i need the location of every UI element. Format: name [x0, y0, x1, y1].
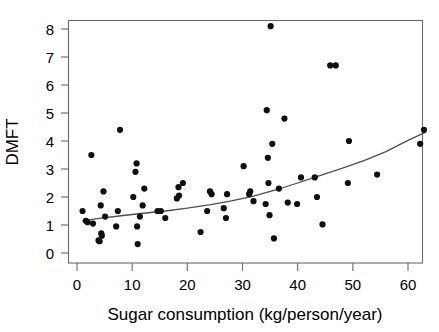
x-tick-label: 60 — [400, 276, 417, 293]
data-point — [346, 138, 352, 144]
data-point — [421, 127, 427, 133]
data-point — [285, 200, 291, 206]
data-point — [269, 141, 275, 147]
data-point — [88, 152, 94, 158]
scatter-points-group — [79, 23, 427, 247]
data-point — [312, 174, 318, 180]
x-axis-title: Sugar consumption (kg/person/year) — [108, 305, 383, 324]
data-point — [247, 188, 253, 194]
data-point — [134, 223, 140, 229]
data-point — [99, 233, 105, 239]
data-point — [265, 155, 271, 161]
data-point — [130, 194, 136, 200]
data-point — [298, 174, 304, 180]
chart-canvas: 012345678 0102030405060 Sugar consumptio… — [0, 0, 439, 332]
x-axis-tick-labels: 0102030405060 — [73, 276, 417, 293]
data-point — [133, 160, 139, 166]
data-point — [204, 208, 210, 214]
data-point — [294, 201, 300, 207]
y-tick-label: 0 — [46, 245, 54, 262]
data-point — [276, 186, 282, 192]
data-point — [84, 219, 90, 225]
data-point — [263, 201, 269, 207]
data-point — [333, 62, 339, 68]
data-point — [268, 23, 274, 29]
y-tick-label: 2 — [46, 189, 54, 206]
y-axis-tick-labels: 012345678 — [46, 21, 54, 262]
y-axis-title: DMFT — [3, 118, 22, 165]
y-tick-label: 7 — [46, 49, 54, 66]
data-point — [100, 188, 106, 194]
data-point — [141, 186, 147, 192]
data-point — [117, 127, 123, 133]
data-point — [197, 229, 203, 235]
data-point — [374, 172, 380, 178]
plot-frame — [69, 21, 423, 264]
data-point — [97, 238, 103, 244]
data-point — [314, 194, 320, 200]
data-point — [271, 235, 277, 241]
scatter-plot-figure: 012345678 0102030405060 Sugar consumptio… — [0, 0, 439, 332]
y-tick-label: 5 — [46, 105, 54, 122]
data-point — [132, 169, 138, 175]
data-point — [135, 241, 141, 247]
data-point — [417, 141, 423, 147]
data-point — [115, 208, 121, 214]
x-tick-label: 0 — [73, 276, 81, 293]
y-tick-label: 3 — [46, 161, 54, 178]
data-point — [79, 208, 85, 214]
x-tick-label: 40 — [289, 276, 306, 293]
x-tick-label: 50 — [344, 276, 361, 293]
data-point — [98, 202, 104, 208]
data-point — [162, 215, 168, 221]
y-axis-ticks — [61, 29, 69, 253]
data-point — [221, 205, 227, 211]
data-point — [180, 180, 186, 186]
data-point — [327, 62, 333, 68]
x-tick-label: 20 — [179, 276, 196, 293]
data-point — [158, 208, 164, 214]
data-point — [209, 191, 215, 197]
data-point — [90, 221, 96, 227]
x-tick-label: 30 — [234, 276, 251, 293]
data-point — [281, 116, 287, 122]
y-tick-label: 1 — [46, 217, 54, 234]
data-point — [223, 215, 229, 221]
data-point — [176, 193, 182, 199]
data-point — [250, 198, 256, 204]
data-point — [265, 180, 271, 186]
x-axis-ticks — [77, 263, 408, 271]
data-point — [113, 223, 119, 229]
data-point — [102, 214, 108, 220]
data-point — [266, 212, 272, 218]
data-point — [319, 221, 325, 227]
data-point — [241, 163, 247, 169]
y-tick-label: 8 — [46, 21, 54, 38]
data-point — [224, 191, 230, 197]
x-tick-label: 10 — [124, 276, 141, 293]
data-point — [140, 202, 146, 208]
data-point — [345, 180, 351, 186]
data-point — [264, 107, 270, 113]
fitted-regression-curve — [83, 132, 426, 221]
y-tick-label: 4 — [46, 133, 54, 150]
y-tick-label: 6 — [46, 77, 54, 94]
data-point — [137, 214, 143, 220]
